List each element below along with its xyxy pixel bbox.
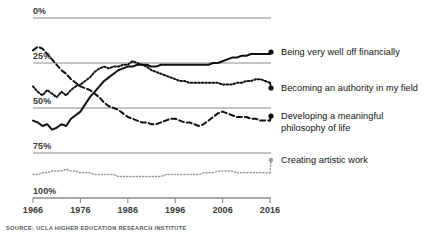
legend-marker-1 [268, 85, 273, 90]
legend-item-creating-artistic-work: Creating artistic work [281, 155, 368, 167]
data-series-layer [33, 47, 270, 177]
legend-item-developing-a-meaningful-philosophy-of-life: Developing a meaningful philosophy of li… [281, 111, 383, 134]
x-axis-label-1996: 1996 [155, 206, 195, 215]
legend-item-being-very-well-off-financially: Being very well off financially [281, 47, 400, 59]
legend-item-becoming-an-authority-in-my-field: Becoming an authority in my field [281, 83, 418, 95]
source-note: SOURCE: UCLA HIGHER EDUCATION RESEARCH I… [6, 225, 187, 231]
x-axis-label-1976: 1976 [60, 206, 100, 215]
y-axis-label-25: 25% [33, 52, 51, 61]
y-axis-label-0: 0% [33, 7, 46, 16]
y-axis-label-50: 50% [33, 97, 51, 106]
x-axis-label-2006: 2006 [203, 206, 243, 215]
legend-line-stubs [268, 49, 273, 172]
x-axis [33, 198, 270, 203]
gridlines [33, 18, 271, 198]
series-line-3 [33, 169, 270, 176]
y-axis-label-100: 100% [33, 187, 56, 196]
x-axis-label-2016: 2016 [250, 206, 290, 215]
legend-marker-0 [268, 49, 273, 54]
chart-container: 100% 75% 50% 25% 0% 1966 1976 1986 1996 … [0, 0, 434, 245]
series-line-2 [33, 47, 270, 126]
legend-marker-3 [269, 158, 273, 162]
x-axis-label-1986: 1986 [108, 206, 148, 215]
y-axis-label-75: 75% [33, 142, 51, 151]
x-axis-label-1966: 1966 [13, 206, 53, 215]
legend-marker-2 [268, 113, 273, 118]
